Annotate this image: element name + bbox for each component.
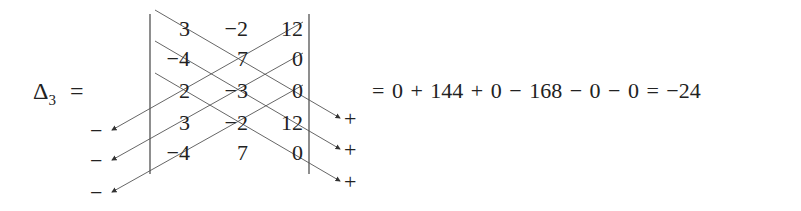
plus-sign-2: + xyxy=(344,139,356,161)
matrix-cell-r0-c0: 3 xyxy=(150,18,190,40)
minus-sign-2: − xyxy=(90,150,102,172)
matrix-cell-r3-c2: 12 xyxy=(263,112,303,134)
matrix-cell-r2-c0: 2 xyxy=(150,80,190,102)
matrix-cell-r4-c2: 0 xyxy=(263,142,303,164)
plus-sign-3: + xyxy=(344,171,356,193)
matrix-cell-r2-c2: 0 xyxy=(263,80,303,102)
matrix-cell-r4-c1: 7 xyxy=(208,142,248,164)
minus-sign-3: − xyxy=(90,182,102,204)
matrix-cell-r0-c2: 12 xyxy=(263,18,303,40)
matrix-cell-r0-c1: −2 xyxy=(208,18,248,40)
matrix-cell-r3-c1: −2 xyxy=(208,112,248,134)
matrix-cell-r1-c0: −4 xyxy=(150,48,190,70)
matrix-cell-r1-c2: 0 xyxy=(263,48,303,70)
plus-sign-1: + xyxy=(344,108,356,130)
matrix-cell-r4-c0: −4 xyxy=(150,142,190,164)
minus-sign-1: − xyxy=(90,120,102,142)
sarrus-diagram-lines xyxy=(0,0,801,211)
matrix-cell-r1-c1: 7 xyxy=(208,48,248,70)
matrix-cell-r3-c0: 3 xyxy=(150,112,190,134)
rhs-expression: = 0 + 144 + 0 − 168 − 0 − 0 = −24 xyxy=(372,80,701,102)
matrix-cell-r2-c1: −3 xyxy=(208,80,248,102)
